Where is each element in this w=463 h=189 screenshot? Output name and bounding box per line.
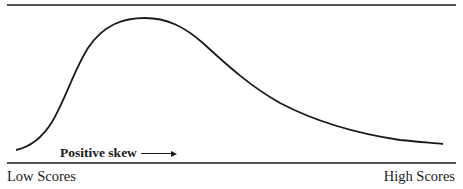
right-arrow-icon [141, 149, 177, 157]
distribution-curve [16, 18, 443, 150]
low-scores-label: Low Scores [7, 169, 76, 184]
positive-skew-annotation: Positive skew [60, 145, 177, 161]
high-scores-label: High Scores [384, 169, 455, 184]
skew-label: Positive skew [60, 145, 137, 161]
